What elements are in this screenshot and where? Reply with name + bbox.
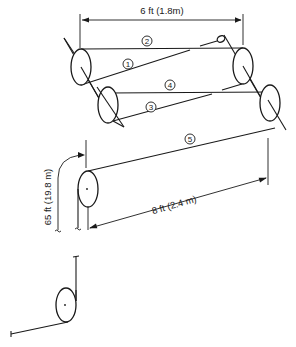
arrowhead-right-icon — [259, 178, 267, 183]
strand-3 — [113, 94, 212, 121]
strand-5 — [88, 128, 275, 171]
upper-left-axle-back — [64, 38, 74, 53]
strand-1 — [81, 50, 190, 85]
strand-2 — [81, 48, 243, 49]
drop-break-icon — [55, 230, 61, 232]
bottom-rope-horizontal — [11, 322, 68, 334]
pulley-lower — [78, 171, 98, 207]
pulley-bottom-hub — [64, 304, 66, 306]
bottom-dimension-label: 8 ft (2.4 m) — [150, 193, 197, 216]
rope-break-icon — [75, 228, 81, 230]
strand-label-4: 4 — [168, 81, 173, 90]
vertical-drop-label: 65 ft (19.8 m) — [42, 169, 53, 226]
pulley-diagram: 6 ft (1.8m) 2 1 — [0, 0, 296, 347]
top-dimension-label: 6 ft (1.8m) — [140, 5, 183, 16]
strand-1-tail — [200, 41, 217, 46]
middle-pulley-pair: 4 3 — [97, 80, 286, 130]
pulley-bottom — [56, 288, 76, 322]
pulley-lower-hub — [86, 188, 88, 190]
upper-pulley-pair: 2 1 — [64, 34, 268, 110]
strand-return-upper — [222, 84, 242, 90]
lower-pulley: 5 8 ft (2.4 m) 65 ft (19.8 m) — [42, 128, 275, 232]
bottom-rope-end-top — [73, 256, 79, 257]
strand-label-5: 5 — [188, 135, 193, 144]
bottom-pulley — [11, 256, 79, 337]
strand-label-3: 3 — [149, 103, 154, 112]
strand-label-2: 2 — [145, 37, 150, 46]
strand-label-1: 1 — [126, 60, 131, 69]
arrowhead-left-icon — [82, 18, 89, 23]
strand-4 — [108, 92, 270, 93]
arrowhead-drop-icon — [78, 152, 85, 158]
vertical-drop-arrow — [58, 155, 80, 230]
arrowhead-left-bottom-icon — [89, 224, 97, 229]
